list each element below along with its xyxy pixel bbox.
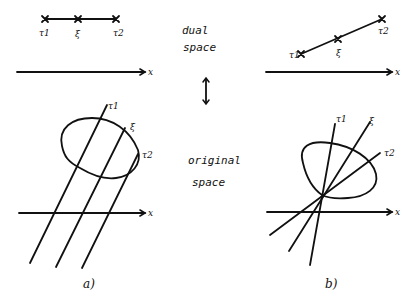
- line-tau1-b: [310, 124, 335, 265]
- label-xi-dual-a: ξ: [75, 29, 81, 39]
- center-labels: dual space original space: [182, 24, 241, 189]
- line-xi-a: [56, 128, 125, 267]
- label-dual-space: space: [183, 41, 216, 54]
- label-xi-original-a: ξ: [130, 122, 136, 132]
- label-dual: dual: [182, 24, 209, 37]
- label-tau2-dual-a: τ2: [113, 28, 124, 38]
- pivot-point-b: [320, 195, 323, 198]
- line-tau2-a: [82, 154, 138, 268]
- label-original-space: space: [192, 176, 225, 189]
- label-tau2-original-a: τ2: [142, 150, 153, 160]
- panel-a-dual: τ1 ξ τ2 x: [17, 16, 153, 77]
- x-axis-label-original-a: x: [148, 208, 153, 218]
- panel-a-original: x τ1 ξ τ2 a): [19, 101, 153, 291]
- label-xi-dual-b: ξ: [336, 48, 342, 58]
- caption-b: b): [325, 277, 338, 291]
- caption-a: a): [83, 277, 95, 291]
- panel-b-original: x τ1 ξ τ2 b): [267, 114, 400, 291]
- label-tau2-dual-b: τ2: [378, 26, 389, 36]
- label-tau1-dual-a: τ1: [39, 28, 50, 38]
- convex-blob-a: [61, 118, 139, 178]
- label-tau1-original-a: τ1: [108, 101, 119, 111]
- label-original: original: [188, 154, 241, 167]
- label-xi-original-b: ξ: [369, 116, 375, 126]
- label-tau1-dual-b: τ1: [289, 50, 300, 60]
- panel-b-dual: τ1 ξ τ2 x: [266, 16, 400, 77]
- x-axis-label-original-b: x: [395, 207, 400, 217]
- label-tau2-original-b: τ2: [384, 148, 395, 158]
- x-axis-label-dual-b: x: [395, 67, 400, 77]
- duality-diagram: τ1 ξ τ2 x τ1 ξ τ2 x dual space original …: [0, 0, 417, 302]
- x-axis-label-dual-a: x: [148, 67, 153, 77]
- label-tau1-original-b: τ1: [336, 114, 347, 124]
- line-xi-b: [289, 122, 370, 251]
